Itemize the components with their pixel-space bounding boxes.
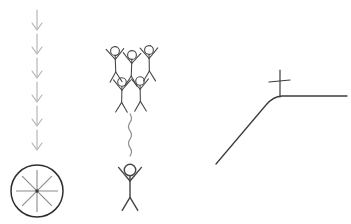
spoked-wheel (11, 165, 63, 217)
hand-drawn-sketch-canvas (0, 0, 351, 224)
figure-body (131, 60, 132, 76)
wheel-hub (35, 189, 38, 192)
background (0, 0, 351, 224)
hand-drawn-diagram (0, 0, 351, 224)
figure-body (115, 56, 116, 72)
